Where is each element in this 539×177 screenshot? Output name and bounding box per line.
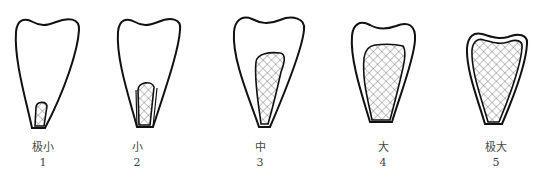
pulp-2 [138, 83, 154, 125]
stage-number-2: 2 [117, 156, 157, 169]
stage-number-3: 3 [240, 156, 280, 169]
tooth-5 [467, 34, 527, 124]
stage-number-4: 4 [363, 156, 403, 169]
stage-label-5: 极大 [476, 138, 516, 154]
tooth-3 [234, 18, 304, 127]
tooth-4 [352, 23, 415, 122]
pulp-3 [255, 53, 284, 124]
tooth-1 [16, 19, 79, 128]
stage-label-3: 中 [240, 138, 280, 154]
pulp-4 [364, 44, 405, 120]
stage-label-4: 大 [363, 138, 403, 154]
tooth-2 [118, 19, 180, 127]
stage-number-5: 5 [476, 156, 516, 169]
stage-label-1: 极小 [23, 138, 63, 154]
pulp-5 [472, 39, 522, 122]
stage-number-1: 1 [23, 156, 63, 169]
stage-label-2: 小 [117, 138, 157, 154]
pulp-1 [35, 102, 47, 126]
